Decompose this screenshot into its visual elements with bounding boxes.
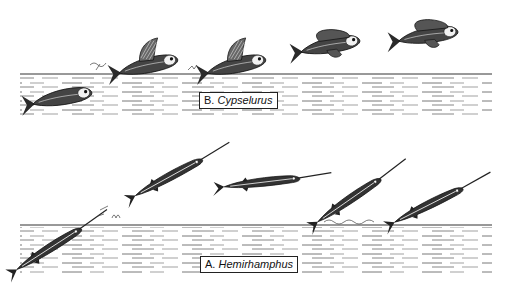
- fish-a-leaping: [122, 139, 235, 209]
- panel-label-b: B. Cypselurus: [199, 92, 278, 109]
- fish-b-gliding-2: [385, 16, 460, 52]
- wake-ripples: [324, 220, 374, 224]
- genus-name-b: Cypselurus: [217, 94, 272, 106]
- panel-letter-b: B.: [204, 94, 214, 106]
- splash-b2: [188, 65, 197, 70]
- panel-letter-a: A.: [205, 258, 215, 270]
- splash-a1: [98, 206, 120, 218]
- genus-name-a: Hemirhamphus: [218, 258, 293, 270]
- fish-b-gliding-1: [286, 25, 361, 63]
- fish-a-airborne: [212, 169, 333, 196]
- splash-b1: [90, 63, 106, 70]
- panel-label-a: A. Hemirhamphus: [200, 256, 298, 273]
- fish-a-tail-skimming-1: [304, 156, 412, 236]
- flying-fish-illustration: [0, 0, 511, 285]
